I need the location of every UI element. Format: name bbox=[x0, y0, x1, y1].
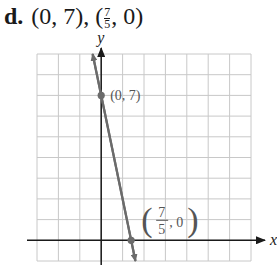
y-axis-label: y bbox=[95, 29, 105, 47]
point-label-rest: , 0 bbox=[169, 215, 183, 230]
x-axis-label: x bbox=[269, 231, 277, 248]
point-label-denominator: 5 bbox=[158, 222, 165, 237]
point-label-paren-right: ) bbox=[187, 201, 198, 239]
point-label-paren-left: ( bbox=[141, 201, 152, 239]
point-label: (0, 7) bbox=[110, 88, 141, 104]
intercept-point bbox=[128, 237, 135, 244]
coordinate-plane: xy(0, 7)(75, 0) bbox=[0, 0, 277, 266]
intercept-point bbox=[98, 92, 105, 99]
point-label-numerator: 7 bbox=[158, 205, 165, 220]
